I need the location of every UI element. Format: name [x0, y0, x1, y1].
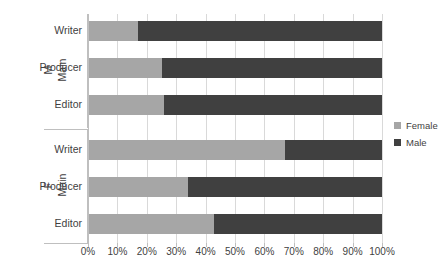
bar-row	[88, 177, 382, 197]
legend-item[interactable]: Female	[394, 120, 438, 131]
bar-segment-male	[162, 58, 383, 78]
group-label: M	[42, 40, 54, 100]
gridline	[264, 14, 265, 243]
gridline	[206, 14, 207, 243]
gridline	[323, 14, 324, 243]
x-tick-label: 100%	[362, 246, 402, 257]
bar-segment-male	[138, 21, 382, 41]
bar-segment-female	[88, 58, 162, 78]
bar-segment-female	[88, 214, 214, 234]
bar-segment-female	[88, 140, 285, 160]
stacked-bar-chart: WriterProducerEditorWriterProducerEditor…	[0, 0, 445, 276]
group-separator	[44, 129, 88, 130]
bar-row	[88, 95, 382, 115]
gridline	[294, 14, 295, 243]
gridline	[117, 14, 118, 243]
chart-legend: FemaleMale	[394, 120, 438, 154]
group-label: F	[42, 155, 54, 215]
gridline	[235, 14, 236, 243]
value-axis-line	[88, 14, 89, 243]
legend-label: Male	[406, 137, 427, 148]
category-axis-bottom-line	[44, 243, 88, 244]
legend-item[interactable]: Male	[394, 137, 438, 148]
bar-row	[88, 21, 382, 41]
legend-swatch-icon	[394, 139, 401, 146]
bar-segment-female	[88, 21, 138, 41]
gridline	[382, 14, 383, 243]
bar-segment-male	[164, 95, 382, 115]
plot-area	[88, 14, 382, 243]
gridline	[353, 14, 354, 243]
bar-segment-male	[214, 214, 382, 234]
bar-row	[88, 214, 382, 234]
legend-swatch-icon	[394, 122, 401, 129]
bar-segment-male	[188, 177, 382, 197]
bar-segment-female	[88, 95, 164, 115]
group-sublabel: Main	[56, 155, 68, 215]
bar-row	[88, 140, 382, 160]
bar-segment-female	[88, 177, 188, 197]
legend-label: Female	[406, 120, 438, 131]
bar-segment-male	[285, 140, 382, 160]
gridline	[147, 14, 148, 243]
bar-row	[88, 58, 382, 78]
gridline	[176, 14, 177, 243]
group-sublabel: Main	[56, 40, 68, 100]
